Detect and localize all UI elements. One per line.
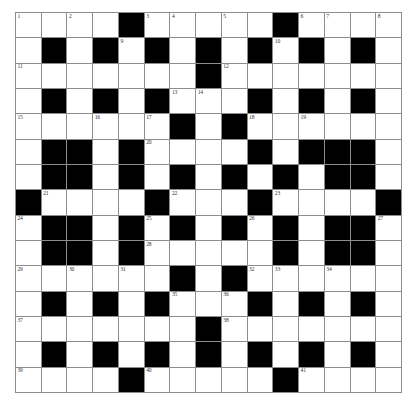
- crossword-letter-cell[interactable]: [170, 241, 195, 265]
- crossword-letter-cell[interactable]: [119, 114, 144, 138]
- crossword-letter-cell[interactable]: [299, 317, 324, 341]
- crossword-letter-cell[interactable]: [42, 114, 67, 138]
- crossword-letter-cell[interactable]: [222, 140, 247, 164]
- crossword-letter-cell[interactable]: 8: [376, 13, 401, 37]
- crossword-letter-cell[interactable]: [16, 140, 41, 164]
- crossword-letter-cell[interactable]: [299, 266, 324, 290]
- crossword-letter-cell[interactable]: 41: [299, 368, 324, 392]
- crossword-letter-cell[interactable]: [273, 342, 298, 366]
- crossword-letter-cell[interactable]: [376, 292, 401, 316]
- crossword-letter-cell[interactable]: 23: [273, 190, 298, 214]
- crossword-grid[interactable]: 1234567891011121314151617181920212223242…: [15, 12, 402, 393]
- crossword-letter-cell[interactable]: [299, 216, 324, 240]
- crossword-letter-cell[interactable]: 22: [170, 190, 195, 214]
- crossword-letter-cell[interactable]: [376, 140, 401, 164]
- crossword-letter-cell[interactable]: [325, 114, 350, 138]
- crossword-letter-cell[interactable]: [376, 64, 401, 88]
- crossword-letter-cell[interactable]: [93, 165, 118, 189]
- crossword-letter-cell[interactable]: [196, 216, 221, 240]
- crossword-letter-cell[interactable]: 10: [273, 38, 298, 62]
- crossword-letter-cell[interactable]: 15: [16, 114, 41, 138]
- crossword-letter-cell[interactable]: [119, 64, 144, 88]
- crossword-letter-cell[interactable]: [170, 140, 195, 164]
- crossword-letter-cell[interactable]: [67, 317, 92, 341]
- crossword-letter-cell[interactable]: [196, 368, 221, 392]
- crossword-letter-cell[interactable]: [222, 38, 247, 62]
- crossword-letter-cell[interactable]: [93, 140, 118, 164]
- crossword-letter-cell[interactable]: 31: [119, 266, 144, 290]
- crossword-letter-cell[interactable]: [299, 190, 324, 214]
- crossword-letter-cell[interactable]: [273, 114, 298, 138]
- crossword-letter-cell[interactable]: 14: [196, 89, 221, 113]
- crossword-letter-cell[interactable]: 37: [16, 317, 41, 341]
- crossword-letter-cell[interactable]: [196, 266, 221, 290]
- crossword-letter-cell[interactable]: 30: [67, 266, 92, 290]
- crossword-letter-cell[interactable]: [16, 38, 41, 62]
- crossword-letter-cell[interactable]: [376, 317, 401, 341]
- crossword-letter-cell[interactable]: [67, 64, 92, 88]
- crossword-letter-cell[interactable]: [376, 368, 401, 392]
- crossword-letter-cell[interactable]: [93, 216, 118, 240]
- crossword-letter-cell[interactable]: [376, 266, 401, 290]
- crossword-letter-cell[interactable]: [351, 368, 376, 392]
- crossword-letter-cell[interactable]: [93, 368, 118, 392]
- crossword-letter-cell[interactable]: [93, 317, 118, 341]
- crossword-letter-cell[interactable]: [248, 64, 273, 88]
- crossword-letter-cell[interactable]: [273, 317, 298, 341]
- crossword-letter-cell[interactable]: 11: [16, 64, 41, 88]
- crossword-letter-cell[interactable]: [222, 368, 247, 392]
- crossword-letter-cell[interactable]: [222, 89, 247, 113]
- crossword-letter-cell[interactable]: [42, 368, 67, 392]
- crossword-letter-cell[interactable]: 5: [222, 13, 247, 37]
- crossword-letter-cell[interactable]: 21: [42, 190, 67, 214]
- crossword-letter-cell[interactable]: [145, 317, 170, 341]
- crossword-letter-cell[interactable]: [170, 38, 195, 62]
- crossword-letter-cell[interactable]: [119, 317, 144, 341]
- crossword-letter-cell[interactable]: 13: [170, 89, 195, 113]
- crossword-letter-cell[interactable]: [42, 64, 67, 88]
- crossword-letter-cell[interactable]: [325, 190, 350, 214]
- crossword-letter-cell[interactable]: [42, 317, 67, 341]
- crossword-letter-cell[interactable]: 26: [248, 216, 273, 240]
- crossword-letter-cell[interactable]: 18: [248, 114, 273, 138]
- crossword-letter-cell[interactable]: [325, 38, 350, 62]
- crossword-letter-cell[interactable]: 34: [325, 266, 350, 290]
- crossword-letter-cell[interactable]: 7: [325, 13, 350, 37]
- crossword-letter-cell[interactable]: 6: [299, 13, 324, 37]
- crossword-letter-cell[interactable]: 16: [93, 114, 118, 138]
- crossword-letter-cell[interactable]: 3: [145, 13, 170, 37]
- crossword-letter-cell[interactable]: 20: [145, 140, 170, 164]
- crossword-letter-cell[interactable]: [325, 342, 350, 366]
- crossword-letter-cell[interactable]: 9: [119, 38, 144, 62]
- crossword-letter-cell[interactable]: 24: [16, 216, 41, 240]
- crossword-letter-cell[interactable]: [119, 89, 144, 113]
- crossword-letter-cell[interactable]: [248, 317, 273, 341]
- crossword-letter-cell[interactable]: 32: [248, 266, 273, 290]
- crossword-letter-cell[interactable]: 38: [222, 317, 247, 341]
- crossword-letter-cell[interactable]: 2: [67, 13, 92, 37]
- crossword-letter-cell[interactable]: 40: [145, 368, 170, 392]
- crossword-letter-cell[interactable]: [16, 89, 41, 113]
- crossword-letter-cell[interactable]: [273, 64, 298, 88]
- crossword-letter-cell[interactable]: 33: [273, 266, 298, 290]
- crossword-letter-cell[interactable]: [376, 342, 401, 366]
- crossword-letter-cell[interactable]: [273, 140, 298, 164]
- crossword-letter-cell[interactable]: [196, 140, 221, 164]
- crossword-letter-cell[interactable]: [222, 342, 247, 366]
- crossword-letter-cell[interactable]: [376, 89, 401, 113]
- crossword-letter-cell[interactable]: [67, 190, 92, 214]
- crossword-letter-cell[interactable]: [325, 317, 350, 341]
- crossword-letter-cell[interactable]: [299, 165, 324, 189]
- crossword-letter-cell[interactable]: [376, 165, 401, 189]
- crossword-letter-cell[interactable]: [376, 241, 401, 265]
- crossword-letter-cell[interactable]: [248, 368, 273, 392]
- crossword-letter-cell[interactable]: [119, 190, 144, 214]
- crossword-letter-cell[interactable]: 19: [299, 114, 324, 138]
- crossword-letter-cell[interactable]: [67, 89, 92, 113]
- crossword-letter-cell[interactable]: [273, 89, 298, 113]
- crossword-letter-cell[interactable]: [351, 114, 376, 138]
- crossword-letter-cell[interactable]: [145, 64, 170, 88]
- crossword-letter-cell[interactable]: 35: [170, 292, 195, 316]
- crossword-letter-cell[interactable]: [325, 368, 350, 392]
- crossword-letter-cell[interactable]: [196, 292, 221, 316]
